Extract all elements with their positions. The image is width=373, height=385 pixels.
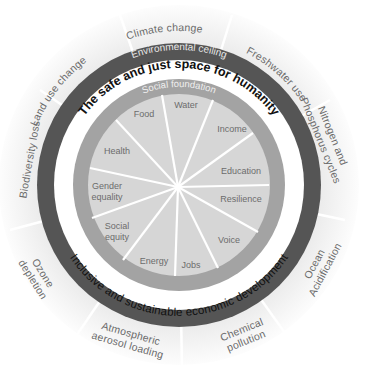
label-gender-equality-2: equality — [91, 192, 123, 202]
label-social-equity-1: Social — [105, 221, 130, 231]
label-income: Income — [217, 124, 247, 134]
label-resilience: Resilience — [220, 194, 262, 204]
label-water: Water — [174, 100, 198, 110]
label-social-equity-2: equity — [105, 232, 130, 242]
label-voice: Voice — [218, 235, 240, 245]
label-health: Health — [104, 146, 130, 156]
label-energy: Energy — [140, 256, 169, 266]
label-education: Education — [221, 166, 261, 176]
label-gender-equality-1: Gender — [92, 181, 122, 191]
doughnut-diagram: Environmental ceiling The safe and just … — [0, 0, 373, 385]
label-food: Food — [134, 109, 155, 119]
label-jobs: Jobs — [181, 260, 201, 270]
